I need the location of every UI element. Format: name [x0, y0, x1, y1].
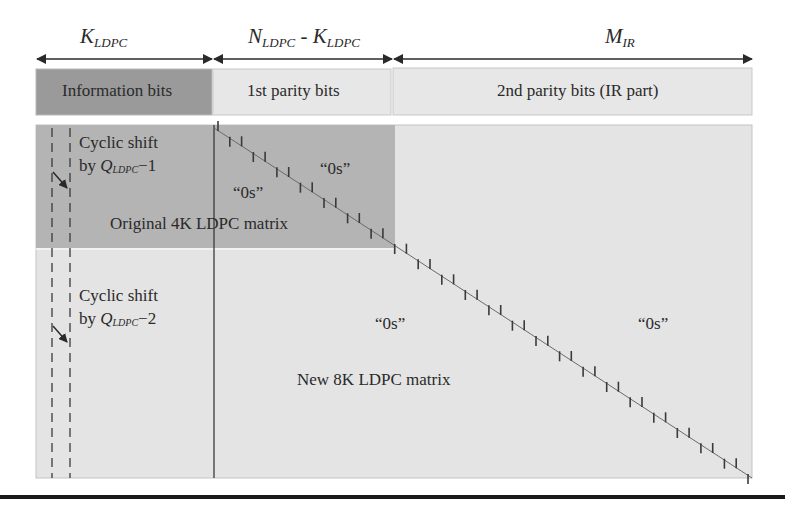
cyclic-shift-2-label: Cyclic shift by QLDPC−2	[79, 284, 158, 334]
n-minus-k-label: NLDPC - KLDPC	[248, 24, 360, 51]
bottom-rule	[0, 495, 785, 499]
second-parity-label: 2nd parity bits (IR part)	[497, 81, 658, 101]
zeros-upper-right-label: “0s”	[320, 157, 350, 180]
information-bits-label: Information bits	[62, 81, 172, 101]
zeros-upper-left-label: “0s”	[233, 181, 263, 204]
zeros-lower-right-label: “0s”	[638, 312, 668, 335]
new-8k-matrix-label: New 8K LDPC matrix	[297, 368, 450, 391]
diagram-graphics	[0, 0, 785, 510]
original-4k-matrix-label: Original 4K LDPC matrix	[110, 212, 288, 235]
first-parity-label: 1st parity bits	[247, 81, 340, 101]
zeros-lower-middle-label: “0s”	[375, 312, 405, 335]
m-ir-label: MIR	[605, 24, 635, 51]
cyclic-shift-1-label: Cyclic shift by QLDPC−1	[79, 131, 158, 181]
k-ldpc-label: KLDPC	[80, 24, 127, 51]
